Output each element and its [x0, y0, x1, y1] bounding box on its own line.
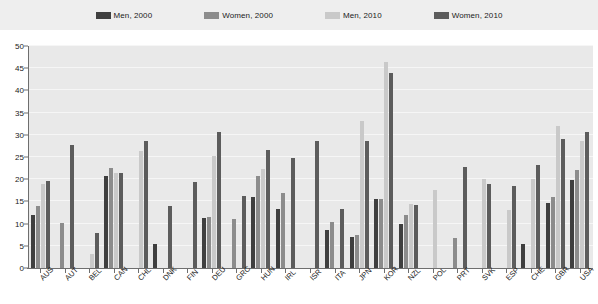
bar[interactable]	[512, 186, 516, 268]
bar-group[interactable]	[518, 46, 543, 268]
bar[interactable]	[291, 158, 295, 268]
bar[interactable]	[144, 141, 148, 268]
bar[interactable]	[453, 238, 457, 268]
bar[interactable]	[536, 165, 540, 268]
bar[interactable]	[261, 169, 265, 268]
bar[interactable]	[575, 170, 579, 268]
bar[interactable]	[340, 209, 344, 268]
bar[interactable]	[531, 179, 535, 268]
bar-group[interactable]	[371, 46, 396, 268]
legend-item[interactable]: Women, 2000	[204, 11, 273, 20]
bar[interactable]	[217, 132, 221, 268]
y-tick-label: 20	[0, 175, 24, 184]
bar[interactable]	[60, 223, 64, 268]
bar[interactable]	[70, 145, 74, 268]
bar-group[interactable]	[249, 46, 274, 268]
bar[interactable]	[556, 126, 560, 268]
bar-groups	[28, 46, 592, 268]
bar[interactable]	[482, 179, 486, 268]
bar[interactable]	[463, 167, 467, 268]
bar[interactable]	[41, 184, 45, 268]
bar[interactable]	[212, 156, 216, 268]
bar[interactable]	[90, 254, 94, 268]
bar[interactable]	[399, 224, 403, 268]
bar[interactable]	[276, 209, 280, 268]
bar-group[interactable]	[469, 46, 494, 268]
bar-group[interactable]	[126, 46, 151, 268]
bar[interactable]	[251, 197, 255, 268]
bar[interactable]	[109, 168, 113, 268]
bar[interactable]	[360, 121, 364, 268]
bar-group[interactable]	[273, 46, 298, 268]
bar[interactable]	[521, 244, 525, 268]
bar[interactable]	[414, 205, 418, 268]
legend-swatch-icon	[96, 12, 111, 19]
bar-group[interactable]	[298, 46, 323, 268]
bar[interactable]	[232, 219, 236, 268]
bar[interactable]	[487, 184, 491, 268]
bar[interactable]	[139, 151, 143, 268]
bar[interactable]	[104, 176, 108, 268]
bar[interactable]	[350, 237, 354, 268]
bar-group[interactable]	[543, 46, 568, 268]
bar-group[interactable]	[102, 46, 127, 268]
bar[interactable]	[585, 132, 589, 268]
bar-group[interactable]	[494, 46, 519, 268]
legend-item[interactable]: Men, 2000	[96, 11, 153, 20]
y-tick-label: 45	[0, 64, 24, 73]
bar[interactable]	[546, 203, 550, 268]
bar-group[interactable]	[28, 46, 53, 268]
bar-group[interactable]	[175, 46, 200, 268]
bar[interactable]	[365, 141, 369, 268]
bar-group[interactable]	[322, 46, 347, 268]
bar-group[interactable]	[420, 46, 445, 268]
bar[interactable]	[153, 244, 157, 268]
bar[interactable]	[330, 222, 334, 268]
legend-swatch-icon	[434, 12, 449, 19]
bar[interactable]	[561, 139, 565, 268]
bar-group[interactable]	[347, 46, 372, 268]
bar[interactable]	[551, 197, 555, 268]
bar[interactable]	[266, 150, 270, 268]
bar[interactable]	[31, 215, 35, 268]
bar[interactable]	[507, 210, 511, 268]
bar-group[interactable]	[396, 46, 421, 268]
bar[interactable]	[409, 204, 413, 268]
bar-group[interactable]	[224, 46, 249, 268]
bar[interactable]	[374, 199, 378, 268]
bar-group[interactable]	[445, 46, 470, 268]
bar[interactable]	[580, 141, 584, 268]
legend-item[interactable]: Men, 2010	[325, 11, 382, 20]
bar[interactable]	[119, 173, 123, 268]
bar[interactable]	[389, 73, 393, 268]
bar-group[interactable]	[77, 46, 102, 268]
bar[interactable]	[36, 206, 40, 268]
bar[interactable]	[570, 180, 574, 268]
bar[interactable]	[404, 215, 408, 268]
bar-group[interactable]	[151, 46, 176, 268]
bar[interactable]	[379, 199, 383, 268]
bar-group[interactable]	[200, 46, 225, 268]
bar[interactable]	[242, 196, 246, 268]
y-tick-label: 5	[0, 241, 24, 250]
bar[interactable]	[256, 176, 260, 268]
bar[interactable]	[114, 173, 118, 268]
bar-group[interactable]	[53, 46, 78, 268]
y-tick-label: 30	[0, 130, 24, 139]
bar[interactable]	[281, 193, 285, 268]
bar-group[interactable]	[567, 46, 592, 268]
bar[interactable]	[207, 217, 211, 268]
bar[interactable]	[168, 206, 172, 268]
legend-item-label: Men, 2000	[114, 11, 153, 20]
bar[interactable]	[95, 233, 99, 268]
bar[interactable]	[355, 235, 359, 268]
bar[interactable]	[193, 182, 197, 268]
bar[interactable]	[325, 230, 329, 268]
bar[interactable]	[315, 141, 319, 268]
legend-item[interactable]: Women, 2010	[434, 11, 503, 20]
bar[interactable]	[433, 190, 437, 268]
bar[interactable]	[384, 62, 388, 268]
legend-item-label: Men, 2010	[343, 11, 382, 20]
bar[interactable]	[202, 218, 206, 268]
bar[interactable]	[46, 181, 50, 268]
